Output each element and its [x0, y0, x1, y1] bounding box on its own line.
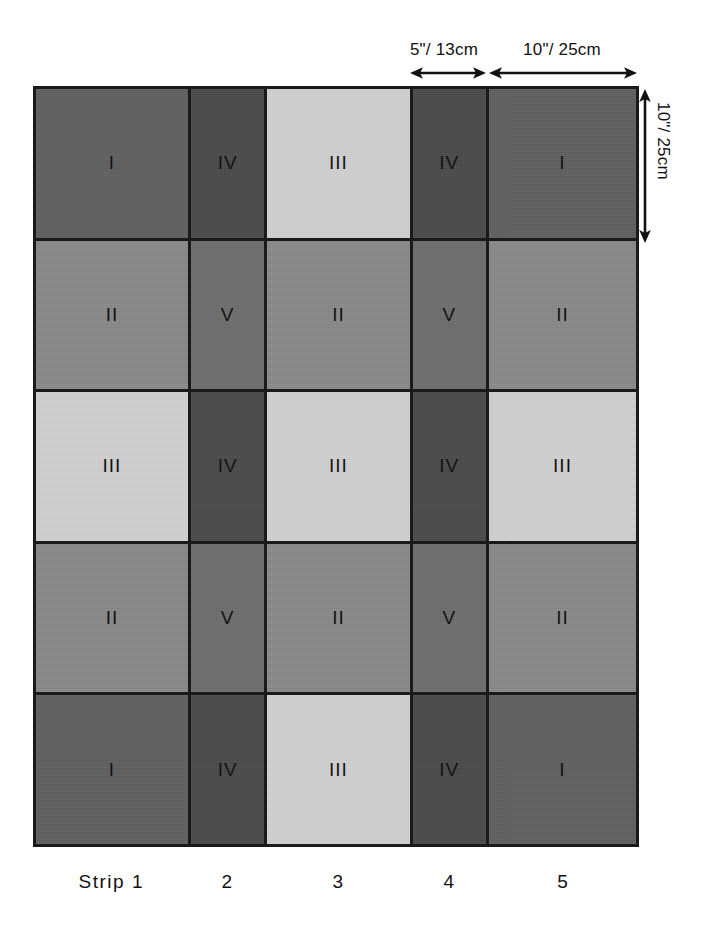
plot-grid-border: IIVIIIIVIIIVIIVIIIIIIVIIIIVIIIIIVIIVIIII… — [33, 86, 639, 847]
strip-caption-3: 3 — [265, 862, 411, 902]
plot-cell: IV — [191, 392, 265, 541]
plot-cell: V — [413, 241, 487, 390]
plot-cell: II — [489, 241, 636, 390]
plot-cell-treatment-label: IV — [218, 152, 238, 174]
strip-caption-2: 2 — [190, 862, 266, 902]
right-dimension-label: 10"/ 25cm — [653, 102, 673, 180]
plot-cell-treatment-label: II — [556, 607, 569, 629]
plot-cell-treatment-label: IV — [439, 455, 459, 477]
plot-layout-figure: 5"/ 13cm 10"/ 25cm 10"/ 25cm IIVIIIIVIII… — [0, 0, 704, 937]
plot-cell-treatment-label: V — [221, 607, 235, 629]
plot-cell-treatment-label: II — [106, 607, 119, 629]
plot-cell-treatment-label: II — [332, 607, 345, 629]
plot-cell: II — [36, 241, 188, 390]
plot-cell-treatment-label: IV — [439, 759, 459, 781]
plot-cell-treatment-label: I — [559, 759, 565, 781]
plot-cell: III — [36, 392, 188, 541]
right-dimension-arrow — [638, 89, 652, 243]
plot-cell-treatment-label: III — [553, 455, 572, 477]
strip-caption-1: Strip 1 — [33, 862, 190, 902]
plot-cell: IV — [191, 89, 265, 238]
plot-cell: V — [191, 241, 265, 390]
plot-cell-treatment-label: V — [442, 304, 456, 326]
plot-cell: II — [267, 544, 409, 693]
plot-cell-treatment-label: III — [329, 759, 348, 781]
plot-cell: IV — [413, 89, 487, 238]
plot-cell-treatment-label: V — [221, 304, 235, 326]
plot-cell: II — [36, 544, 188, 693]
plot-cell: III — [267, 392, 409, 541]
top-dimension-label-narrow: 5"/ 13cm — [394, 40, 494, 60]
plot-cell-treatment-label: V — [442, 607, 456, 629]
plot-cell: I — [489, 89, 636, 238]
plot-cell-treatment-label: III — [103, 455, 122, 477]
strip-caption-4: 4 — [412, 862, 488, 902]
plot-cell: I — [36, 695, 188, 844]
strip-caption-5: 5 — [488, 862, 640, 902]
plot-cell: II — [489, 544, 636, 693]
plot-cell: I — [489, 695, 636, 844]
plot-cell-treatment-label: IV — [218, 759, 238, 781]
plot-cell-treatment-label: III — [329, 455, 348, 477]
plot-cell: V — [191, 544, 265, 693]
plot-cell-treatment-label: IV — [218, 455, 238, 477]
plot-cell-treatment-label: I — [109, 152, 115, 174]
plot-cell-treatment-label: II — [332, 304, 345, 326]
top-dimension-arrow-narrow — [410, 66, 486, 80]
plot-cell-treatment-label: IV — [439, 152, 459, 174]
plot-cell-treatment-label: III — [329, 152, 348, 174]
strip-caption-row: Strip 12345 — [33, 862, 639, 902]
plot-cell: II — [267, 241, 409, 390]
plot-cell-treatment-label: I — [109, 759, 115, 781]
plot-cell: III — [267, 695, 409, 844]
plot-cell: III — [267, 89, 409, 238]
plot-grid: IIVIIIIVIIIVIIVIIIIIIVIIIIVIIIIIVIIVIIII… — [36, 89, 636, 844]
plot-cell: IV — [413, 392, 487, 541]
top-dimension-arrow-wide — [489, 66, 637, 80]
plot-cell-treatment-label: II — [106, 304, 119, 326]
plot-cell-treatment-label: II — [556, 304, 569, 326]
plot-cell-treatment-label: I — [559, 152, 565, 174]
plot-cell: III — [489, 392, 636, 541]
top-dimension-label-wide: 10"/ 25cm — [500, 40, 624, 60]
plot-cell: V — [413, 544, 487, 693]
plot-cell: IV — [413, 695, 487, 844]
plot-cell: I — [36, 89, 188, 238]
plot-cell: IV — [191, 695, 265, 844]
